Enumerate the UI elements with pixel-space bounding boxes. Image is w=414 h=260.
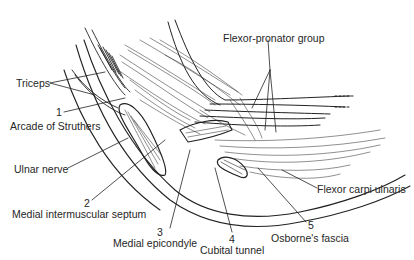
number-5: 5 (308, 219, 314, 231)
cubital-tunnel-shape (217, 157, 247, 177)
label-medial-epicondyle: Medial epicondyle (113, 237, 197, 249)
label-medial-intermuscular-septum: Medial intermuscular septum (12, 208, 146, 220)
label-arcade-of-struthers: Arcade of Struthers (10, 120, 100, 132)
label-ulnar-nerve: Ulnar nerve (14, 163, 68, 175)
label-osbornes-fascia: Osborne's fascia (271, 232, 349, 244)
ulnar-nerve-shape (119, 104, 166, 176)
label-triceps: Triceps (16, 77, 50, 89)
label-flexor-carpi-ulnaris: Flexor carpi ulnaris (317, 183, 406, 195)
label-flexor-pronator-group: Flexor-pronator group (223, 32, 325, 44)
anatomy-figure: Triceps 1 Arcade of Struthers Flexor-pro… (0, 0, 414, 260)
number-1: 1 (56, 106, 62, 118)
label-cubital-tunnel: Cubital tunnel (200, 244, 264, 256)
triceps-muscle (72, 28, 130, 115)
